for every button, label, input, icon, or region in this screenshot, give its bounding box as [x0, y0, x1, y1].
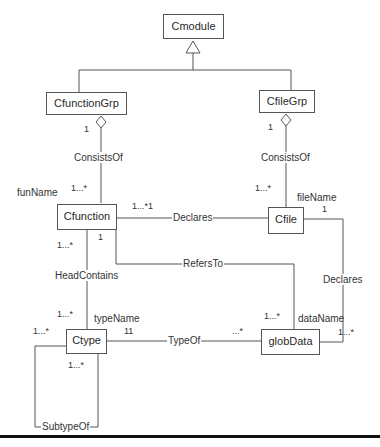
class-cfunction: Cfunction	[57, 204, 117, 230]
class-name: Cfile	[275, 213, 297, 225]
mult-ctype-typename: 11	[124, 326, 133, 336]
class-cfile: Cfile	[268, 207, 304, 234]
mult-cfilegrp-agg: 1	[268, 122, 273, 132]
class-name: CfileGrp	[267, 95, 307, 107]
class-cfilegrp: CfileGrp	[259, 90, 315, 113]
role-typename: typeName	[94, 313, 140, 324]
mult-ctype-subtype-bottom: 1...*	[68, 360, 84, 370]
class-cfunctiongrp: CfunctionGrp	[46, 92, 127, 115]
class-cmodule: Cmodule	[163, 14, 224, 39]
class-name: Ctype	[72, 334, 101, 346]
mult-cfile-declares-top: 1	[322, 204, 327, 214]
class-ctype: Ctype	[66, 329, 107, 354]
mult-globdata-refers: 1...*	[264, 311, 280, 321]
generalization-triangle-icon	[186, 41, 200, 53]
role-filename: fileName	[297, 192, 336, 203]
assoc-refersto: RefersTo	[182, 258, 224, 269]
mult-cfunction-refers: 1	[98, 232, 103, 242]
mult-cfile-consists: 1...*	[255, 183, 271, 193]
assoc-headcontains: HeadContains	[55, 270, 118, 281]
class-globdata: globData	[261, 329, 320, 355]
assoc-consistsof-right: ConsistsOf	[261, 152, 310, 163]
role-dataname: dataName	[298, 313, 344, 324]
mult-cfunction-declares: 1...*1	[132, 201, 153, 211]
mult-cfunctiongrp-agg: 1	[84, 124, 89, 134]
class-name: globData	[268, 335, 312, 347]
mult-cfunction-consists: 1...*	[71, 183, 87, 193]
class-name: CfunctionGrp	[54, 97, 119, 109]
mult-globdata-typeof: ...*	[232, 326, 243, 336]
assoc-consistsof-left: ConsistsOf	[74, 152, 123, 163]
aggregation-diamond-icon	[96, 116, 106, 128]
mult-cfunction-head: 1...*	[57, 240, 73, 250]
class-name: Cmodule	[171, 20, 215, 32]
bottom-rule	[0, 435, 380, 438]
role-funname: funName	[17, 187, 58, 198]
aggregation-diamond-icon	[281, 114, 291, 126]
assoc-subtypeof: SubtypeOf	[41, 421, 90, 432]
assoc-declares-right: Declares	[323, 274, 362, 285]
assoc-declares-top: Declares	[172, 212, 213, 223]
mult-ctype-subtype-left: 1...*	[33, 326, 49, 336]
mult-ctype-head: 1...*	[57, 309, 73, 319]
class-name: Cfunction	[64, 210, 110, 222]
assoc-typeof: TypeOf	[167, 335, 201, 346]
mult-globdata-declares: 1...*	[338, 327, 354, 337]
